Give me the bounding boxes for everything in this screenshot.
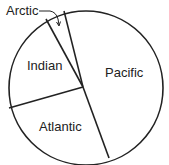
label-pacific: Pacific	[105, 65, 144, 80]
pie-outline	[9, 11, 163, 165]
label-atlantic: Atlantic	[39, 119, 82, 134]
pie-chart: Pacific Indian Atlantic Arctic	[0, 0, 169, 165]
label-indian: Indian	[27, 58, 62, 73]
label-arctic: Arctic	[6, 3, 39, 18]
